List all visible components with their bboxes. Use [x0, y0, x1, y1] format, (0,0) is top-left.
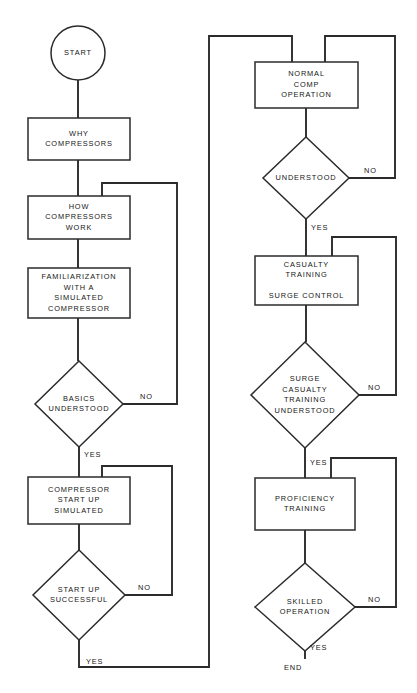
node-label-normal-comp-operation: NORMAL: [288, 69, 325, 78]
edge-label-basics-yes-label: YES: [84, 450, 101, 459]
edge-label-skilled-no-label: NO: [368, 595, 381, 604]
node-label-surge-casualty-training-understood: SURGE: [290, 374, 321, 383]
node-normal-comp-operation[interactable]: NORMALCOMPOPERATION: [255, 62, 358, 108]
node-label-start-up-successful: START UP: [58, 585, 101, 594]
node-label-end: END: [284, 663, 302, 672]
node-label-compressor-start-up-simulated: SIMULATED: [54, 506, 103, 515]
node-label-familiarization: FAMILIARIZATION: [41, 272, 116, 281]
node-label-skilled-operation: OPERATION: [280, 607, 331, 616]
node-label-why-compressors: WHY: [69, 129, 89, 138]
node-label-basics-understood: UNDERSTOOD: [49, 404, 110, 413]
node-casualty-training-surge-control[interactable]: CASUALTYTRAININGSURGE CONTROL: [255, 256, 358, 305]
edge-label-understood-no-label: NO: [364, 166, 377, 175]
node-label-casualty-training-surge-control: CASUALTY: [284, 260, 329, 269]
node-label-surge-casualty-training-understood: TRAINING: [284, 395, 326, 404]
node-label-casualty-training-surge-control: TRAINING: [285, 270, 327, 279]
node-start-up-successful[interactable]: START UPSUCCESSFUL: [33, 550, 125, 640]
node-label-skilled-operation: SKILLED: [287, 597, 323, 606]
node-understood[interactable]: UNDERSTOOD: [263, 137, 349, 219]
node-label-surge-casualty-training-understood: CASUALTY: [282, 385, 327, 394]
node-label-compressor-start-up-simulated: START UP: [58, 495, 101, 504]
node-label-familiarization: COMPRESSOR: [48, 304, 110, 313]
flowchart-svg: STARTWHYCOMPRESSORSHOWCOMPRESSORSWORKFAM…: [0, 0, 417, 693]
edge-label-startup-no-label: NO: [138, 583, 151, 592]
node-surge-casualty-training-understood[interactable]: SURGECASUALTYTRAININGUNDERSTOOD: [251, 342, 359, 448]
node-label-start: START: [64, 48, 92, 57]
node-label-compressor-start-up-simulated: COMPRESSOR: [48, 485, 110, 494]
node-label-normal-comp-operation: OPERATION: [281, 90, 332, 99]
node-skilled-operation[interactable]: SKILLEDOPERATION: [255, 563, 355, 651]
edge-label-surge-no-label: NO: [368, 383, 381, 392]
node-label-understood: UNDERSTOOD: [276, 173, 337, 182]
node-label-normal-comp-operation: COMP: [294, 80, 320, 89]
node-label-familiarization: WITH A: [64, 283, 95, 292]
node-label-how-compressors-work: HOW: [69, 202, 90, 211]
node-end[interactable]: END: [284, 663, 302, 672]
node-label-how-compressors-work: COMPRESSORS: [45, 212, 113, 221]
node-label-surge-casualty-training-understood: UNDERSTOOD: [275, 406, 336, 415]
node-label-proficiency-training: TRAINING: [284, 504, 326, 513]
node-basics-understood[interactable]: BASICSUNDERSTOOD: [35, 361, 123, 447]
node-compressor-start-up-simulated[interactable]: COMPRESSORSTART UPSIMULATED: [28, 477, 130, 524]
node-proficiency-training[interactable]: PROFICIENCYTRAINING: [255, 478, 355, 530]
node-familiarization[interactable]: FAMILIARIZATIONWITH ASIMULATEDCOMPRESSOR: [28, 268, 130, 318]
node-label-start-up-successful: SUCCESSFUL: [50, 595, 108, 604]
node-label-basics-understood: BASICS: [63, 394, 95, 403]
edge-label-startup-yes-label: YES: [86, 657, 103, 666]
edge-label-skilled-yes-label: YES: [310, 643, 327, 652]
edge-label-surge-yes-label: YES: [310, 458, 327, 467]
node-label-casualty-training-surge-control: SURGE CONTROL: [269, 291, 345, 300]
node-how-compressors-work[interactable]: HOWCOMPRESSORSWORK: [28, 196, 130, 239]
node-label-familiarization: SIMULATED: [54, 293, 103, 302]
node-label-how-compressors-work: WORK: [66, 223, 92, 232]
node-label-proficiency-training: PROFICIENCY: [275, 494, 335, 503]
node-label-why-compressors: COMPRESSORS: [45, 139, 113, 148]
flowchart-canvas: STARTWHYCOMPRESSORSHOWCOMPRESSORSWORKFAM…: [0, 0, 417, 693]
node-start[interactable]: START: [51, 26, 105, 80]
edge-label-understood-yes-label: YES: [311, 223, 328, 232]
edge-label-basics-no-label: NO: [140, 392, 153, 401]
node-why-compressors[interactable]: WHYCOMPRESSORS: [28, 118, 130, 160]
